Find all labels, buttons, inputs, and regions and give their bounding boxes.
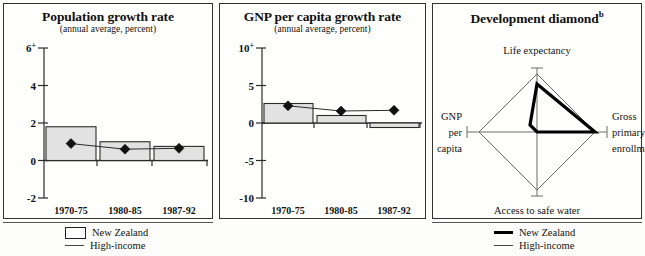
population-chart-svg: 6+ 4 2 0 -2 1970-75 [4,38,212,218]
legend-label-diamond-new-zealand: New Zealand [519,227,575,238]
population-xlabel-1: 1970-75 [54,205,87,216]
population-ylabel-6: 6+ [26,41,37,54]
population-xlabel-3: 1987-92 [162,205,195,216]
gnp-bar-1987-92 [370,123,419,128]
diamond-chart-svg: Life expectancy Access to safe water GNP… [433,32,641,218]
population-ylabel-neg2: -2 [27,192,37,204]
legend-item-diamond-new-zealand: New Zealand [432,226,642,239]
gnp-ylabel-10: 10+ [238,41,254,54]
legend-right-divider [432,222,642,223]
gnp-high-income-marker-3 [389,105,399,115]
legend-swatch-line-icon [65,245,84,246]
legend-bar-charts: New Zealand High-income [3,222,213,252]
gnp-chart-title: GNP per capita growth rate [220,10,425,24]
gnp-xlabel-2: 1980-85 [324,205,357,216]
diamond-title-superscript: b [599,9,604,19]
figure-sheet: Population growth rate (annual average, … [0,0,645,256]
diamond-label-enrollment-line1: Gross [612,111,637,122]
diamond-label-enrollment-line2: primary [612,127,645,138]
legend-item-diamond-high-income: High-income [432,239,642,252]
diamond-label-gnp-line2: per [449,127,463,138]
diamond-label-enrollment-line3: enrollment [612,143,645,154]
panel-population-growth: Population growth rate (annual average, … [3,3,213,219]
population-chart-subtitle: (annual average, percent) [4,25,212,35]
population-xlabel-2: 1980-85 [108,205,141,216]
legend-development-diamond: New Zealand High-income [432,222,642,252]
gnp-xlabel-3: 1987-92 [377,205,410,216]
population-plot-area: 6+ 4 2 0 -2 1970-75 [4,38,212,218]
gnp-chart-subtitle: (annual average, percent) [220,25,425,35]
panel-gnp-growth: GNP per capita growth rate (annual avera… [219,3,426,219]
gnp-xlabel-1: 1970-75 [271,205,304,216]
diamond-label-access-to-safe-water: Access to safe water [494,205,581,216]
legend-label-high-income: High-income [90,240,145,251]
legend-swatch-thick-line-icon [494,231,513,234]
gnp-ylabel-neg10: -10 [239,192,254,204]
population-ylabel-4: 4 [31,80,37,92]
legend-label-new-zealand: New Zealand [92,227,148,238]
diamond-label-gnp-line3: capita [437,143,462,154]
legend-left-divider [3,222,213,223]
legend-swatch-thin-line-icon [494,245,513,246]
population-ylabel-2: 2 [31,117,37,129]
gnp-plot-area: 10+ 5 0 -5 -10 1970-75 1980-85 1 [220,38,425,218]
legend-swatch-box-icon [65,227,86,239]
diamond-title-text: Development diamond [470,11,598,26]
gnp-chart-svg: 10+ 5 0 -5 -10 1970-75 1980-85 1 [220,38,425,218]
legend-item-new-zealand: New Zealand [3,226,213,239]
diamond-plot-area: Life expectancy Access to safe water GNP… [433,32,641,218]
diamond-label-life-expectancy: Life expectancy [503,45,571,56]
diamond-label-gnp-line1: GNP [441,111,462,122]
legend-item-high-income: High-income [3,239,213,252]
gnp-ylabel-0: 0 [249,117,255,129]
panel-development-diamond: Development diamondb Life expectancy Acc… [432,3,642,219]
gnp-ylabel-neg5: -5 [245,155,255,167]
population-ylabel-0: 0 [31,155,37,167]
diamond-chart-title: Development diamondb [433,10,641,26]
legend-label-diamond-high-income: High-income [519,240,574,251]
diamond-series-new-zealand [530,84,595,132]
gnp-bar-1980-85 [317,116,366,124]
gnp-high-income-marker-2 [336,106,346,116]
population-chart-title: Population growth rate [4,10,212,24]
gnp-ylabel-5: 5 [249,80,255,92]
